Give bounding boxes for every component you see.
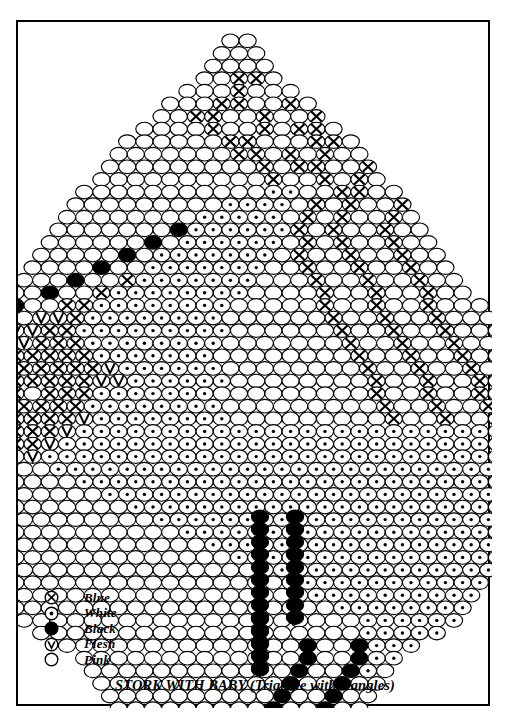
bead-pink <box>437 387 454 401</box>
bead-white <box>428 626 445 640</box>
bead-white <box>213 450 230 464</box>
bead-blue <box>325 135 342 149</box>
bead-pink <box>110 147 127 161</box>
bead-pink <box>316 185 333 199</box>
bead-white <box>437 437 454 451</box>
bead-white <box>222 273 239 287</box>
bead-white <box>196 236 213 250</box>
bead-pink <box>187 198 204 212</box>
bead-white <box>127 299 144 313</box>
bead-white <box>170 362 187 376</box>
bead-row <box>18 311 492 325</box>
bead-white <box>359 626 376 640</box>
bead-white <box>385 525 402 539</box>
bead-row <box>222 34 256 48</box>
bead-pink <box>334 374 351 388</box>
bead-white <box>368 651 385 665</box>
bead-white <box>351 576 368 590</box>
bead-pink <box>144 185 161 199</box>
bead-white <box>248 437 265 451</box>
bead-white <box>239 488 256 502</box>
bead-blue <box>420 387 437 401</box>
bead-white <box>213 299 230 313</box>
bead-pink <box>316 210 333 224</box>
bead-pink <box>299 349 316 363</box>
bead-pink <box>342 614 359 628</box>
bead-flesh <box>58 425 75 439</box>
bead-white <box>110 475 127 489</box>
bead-pink <box>385 387 402 401</box>
bead-blue <box>385 236 402 250</box>
bead-white <box>222 248 239 262</box>
bead-white <box>196 437 213 451</box>
bead-pink <box>239 160 256 174</box>
bead-white <box>471 475 488 489</box>
bead-pink <box>110 236 127 250</box>
bead-pink <box>230 412 247 426</box>
bead-white <box>101 399 118 413</box>
bead-pink <box>265 374 282 388</box>
bead-white <box>402 525 419 539</box>
bead-pink <box>308 248 325 262</box>
bead-pink <box>334 387 351 401</box>
bead-pink <box>248 286 265 300</box>
bead-pink <box>170 122 187 136</box>
circle-open-icon <box>40 652 62 667</box>
bead-pink <box>33 248 50 262</box>
bead-pink <box>351 387 368 401</box>
bead-blue <box>76 387 93 401</box>
bead-white <box>334 500 351 514</box>
bead-pink <box>308 626 325 640</box>
bead-blue <box>67 311 84 325</box>
bead-white <box>93 299 110 313</box>
bead-blue <box>334 236 351 250</box>
bead-flesh <box>18 324 24 338</box>
bead-white <box>308 538 325 552</box>
bead-pink <box>248 84 265 98</box>
bead-pink <box>33 462 50 476</box>
bead-white <box>101 311 118 325</box>
dangle-bead <box>251 523 268 537</box>
bead-white <box>170 488 187 502</box>
bead-blue <box>342 248 359 262</box>
bead-white <box>239 462 256 476</box>
bead-pink <box>316 324 333 338</box>
bead-white <box>179 286 196 300</box>
bead-pink <box>41 500 58 514</box>
bead-black <box>41 286 58 300</box>
bead-white <box>179 299 196 313</box>
bead-pink <box>58 261 75 275</box>
bead-pink <box>437 349 454 363</box>
bead-white <box>385 551 402 565</box>
bead-white <box>445 563 462 577</box>
bead-white <box>316 525 333 539</box>
bead-pink <box>50 563 67 577</box>
bead-white <box>488 551 492 565</box>
bead-pink <box>334 412 351 426</box>
bead-pink <box>368 324 385 338</box>
bead-pink <box>471 299 488 313</box>
bead-pink <box>18 273 33 287</box>
bead-white <box>127 387 144 401</box>
bead-white <box>299 437 316 451</box>
bead-white <box>291 462 308 476</box>
bead-pink <box>351 286 368 300</box>
bead-white <box>205 513 222 527</box>
bead-pink <box>308 336 325 350</box>
bead-pink <box>282 412 299 426</box>
bead-white <box>153 399 170 413</box>
dangle-bead <box>286 586 303 600</box>
bead-white <box>334 425 351 439</box>
bead-pink <box>282 286 299 300</box>
bead-pink <box>222 336 239 350</box>
bead-white <box>170 399 187 413</box>
bead-pink <box>196 97 213 111</box>
bead-white <box>196 286 213 300</box>
bead-white <box>213 286 230 300</box>
bead-blue <box>230 72 247 86</box>
bead-white <box>299 475 316 489</box>
bead-pink <box>377 362 394 376</box>
bead-white <box>377 614 394 628</box>
bead-white <box>402 639 419 653</box>
bead-white <box>368 437 385 451</box>
